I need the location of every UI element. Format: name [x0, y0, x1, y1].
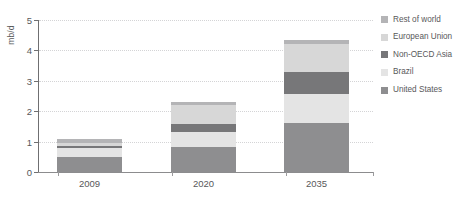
- x-axis-tick-mark: [58, 172, 59, 176]
- legend-item[interactable]: United States: [381, 81, 457, 99]
- x-axis-tick-label: 2020: [193, 178, 214, 189]
- bar-segment: [284, 44, 349, 71]
- bar-segment: [171, 102, 236, 105]
- x-axis-line: [38, 172, 373, 173]
- legend-item[interactable]: Non-OECD Asia: [381, 46, 457, 64]
- bar-segment: [284, 94, 349, 123]
- legend-item-label: Rest of world: [393, 16, 441, 24]
- bar-group: [57, 20, 122, 172]
- y-axis-tick-mark: [34, 172, 38, 173]
- bar-segment: [284, 40, 349, 45]
- y-axis-tick-label: 0: [27, 167, 32, 178]
- bar-segment: [171, 105, 236, 124]
- bar-segment: [57, 143, 122, 146]
- legend-swatch-icon: [381, 69, 388, 76]
- y-axis-line: [38, 20, 39, 172]
- legend-item-label: Brazil: [393, 68, 413, 76]
- legend-item[interactable]: Brazil: [381, 64, 457, 82]
- y-axis-tick-label: 2: [27, 106, 32, 117]
- legend-item[interactable]: Rest of world: [381, 11, 457, 29]
- plot-area: 012345 200920202035: [38, 20, 373, 172]
- bar-segment: [57, 139, 122, 144]
- bar-segment: [284, 123, 349, 172]
- y-axis-tick-mark: [34, 20, 38, 21]
- x-axis-tick-label: 2009: [79, 178, 100, 189]
- legend-item[interactable]: European Union: [381, 29, 457, 47]
- bar-segment: [284, 72, 349, 95]
- y-axis-title: mb/d: [6, 15, 16, 55]
- bar-segment: [171, 132, 236, 147]
- chart-legend: Rest of worldEuropean UnionNon-OECD Asia…: [381, 11, 457, 99]
- x-axis-tick-mark: [286, 172, 287, 176]
- y-axis-tick-label: 3: [27, 75, 32, 86]
- y-axis-tick-mark: [34, 111, 38, 112]
- y-axis-tick-mark: [34, 81, 38, 82]
- x-axis-tick-mark: [373, 172, 374, 176]
- bar-segment: [57, 146, 122, 148]
- x-axis-tick-label: 2035: [306, 178, 327, 189]
- x-axis-tick-mark: [172, 172, 173, 176]
- y-axis-tick-mark: [34, 142, 38, 143]
- legend-swatch-icon: [381, 87, 388, 94]
- legend-item-label: United States: [393, 86, 442, 94]
- legend-swatch-icon: [381, 51, 388, 58]
- y-axis-tick-mark: [34, 50, 38, 51]
- legend-item-label: Non-OECD Asia: [393, 51, 452, 59]
- bar-segment: [57, 148, 122, 157]
- bar-group: [171, 20, 236, 172]
- y-axis-tick-label: 1: [27, 136, 32, 147]
- bar-segment: [171, 147, 236, 172]
- bar-segment: [57, 157, 122, 172]
- y-axis-tick-label: 4: [27, 45, 32, 56]
- bar-segment: [171, 124, 236, 132]
- stacked-bar-chart: mb/d 012345 200920202035 Rest of worldEu…: [0, 0, 457, 197]
- bar-group: [284, 20, 349, 172]
- legend-item-label: European Union: [393, 33, 452, 41]
- legend-swatch-icon: [381, 34, 388, 41]
- legend-swatch-icon: [381, 16, 388, 23]
- y-axis-tick-label: 5: [27, 15, 32, 26]
